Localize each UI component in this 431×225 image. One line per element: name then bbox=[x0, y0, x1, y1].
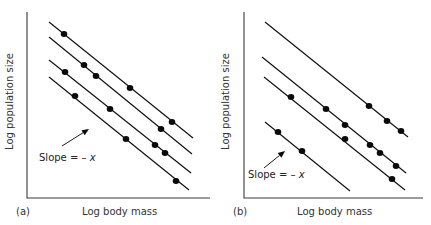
figure: Log population size Log body mass (a) Sl… bbox=[0, 0, 431, 225]
data-point bbox=[366, 103, 373, 109]
data-point bbox=[377, 150, 384, 156]
panel-a-label: (a) bbox=[16, 207, 30, 217]
data-point bbox=[72, 93, 79, 99]
arrow-head-icon bbox=[81, 129, 89, 135]
data-point bbox=[342, 136, 349, 142]
data-point bbox=[61, 31, 68, 37]
data-point bbox=[62, 69, 69, 75]
regression-line bbox=[49, 37, 192, 154]
data-point bbox=[173, 178, 180, 184]
arrow-head-icon bbox=[278, 151, 285, 158]
panel-a-y-axis-label: Log population size bbox=[5, 53, 15, 150]
data-point bbox=[323, 106, 330, 112]
data-point bbox=[107, 106, 114, 112]
data-point bbox=[93, 73, 100, 79]
data-point bbox=[158, 126, 165, 132]
data-point bbox=[367, 142, 374, 148]
panel-a-slope-annotation: Slope = – x bbox=[39, 153, 96, 163]
panel-b-label: (b) bbox=[233, 207, 247, 217]
panel-b-slope-annotation: Slope = – x bbox=[248, 170, 305, 180]
data-point bbox=[81, 62, 88, 68]
data-point bbox=[299, 148, 306, 154]
slope-text: Slope = – bbox=[248, 169, 299, 180]
data-point bbox=[384, 118, 391, 124]
panel-a-x-axis-label: Log body mass bbox=[82, 207, 157, 217]
panel-b-x-axis-label: Log body mass bbox=[297, 207, 372, 217]
data-point bbox=[162, 150, 169, 156]
arrow-icon bbox=[62, 133, 83, 146]
slope-variable: x bbox=[299, 169, 305, 180]
data-point bbox=[127, 85, 134, 91]
panel-a-plot bbox=[27, 12, 210, 198]
arrow-icon bbox=[264, 155, 280, 168]
slope-text: Slope = – bbox=[39, 152, 90, 163]
data-point bbox=[393, 163, 400, 169]
data-point bbox=[152, 142, 159, 148]
data-point bbox=[169, 119, 176, 125]
data-point bbox=[275, 129, 282, 135]
panel-b-y-axis-label: Log population size bbox=[221, 53, 231, 150]
axes bbox=[27, 12, 210, 198]
data-point bbox=[342, 122, 349, 128]
data-point bbox=[398, 128, 405, 134]
plot-canvas bbox=[0, 0, 431, 225]
data-point bbox=[123, 136, 130, 142]
data-point bbox=[389, 176, 396, 182]
data-point bbox=[288, 94, 295, 100]
regression-line bbox=[262, 57, 406, 173]
slope-variable: x bbox=[90, 152, 96, 163]
